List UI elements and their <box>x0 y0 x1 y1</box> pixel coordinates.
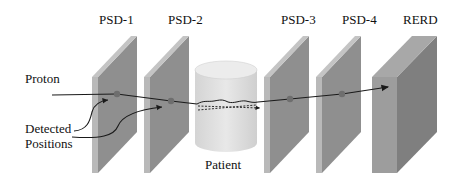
label-patient: Patient <box>205 157 241 172</box>
rerd-block <box>372 36 437 173</box>
hit-dot-psd1 <box>114 91 120 97</box>
label-detected: Detected <box>25 121 71 136</box>
label-proton: Proton <box>25 71 60 86</box>
label-positions: Positions <box>25 136 73 151</box>
label-psd2: PSD-2 <box>168 12 203 27</box>
psd1-plate <box>92 36 137 173</box>
label-psd4: PSD-4 <box>342 12 377 27</box>
label-psd1: PSD-1 <box>99 12 134 27</box>
label-psd3: PSD-3 <box>281 12 316 27</box>
hit-dot-psd2 <box>168 98 174 104</box>
psd2-plate <box>144 36 189 173</box>
label-rerd: RERD <box>403 12 438 27</box>
hit-dot-psd4 <box>339 91 345 97</box>
diagram-canvas: PSD-1 PSD-2 PSD-3 PSD-4 RERD Proton Dete… <box>0 0 462 194</box>
psd3-plate <box>264 36 309 173</box>
psd4-plate <box>316 36 361 173</box>
hit-dot-psd3 <box>287 96 293 102</box>
